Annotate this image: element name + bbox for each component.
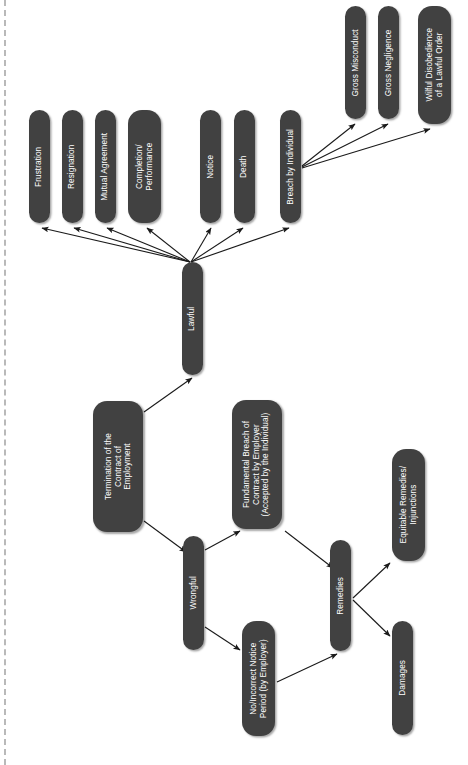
node-label-wilful-disobedience: Wilful Disobedience of a Lawful Order xyxy=(425,28,444,102)
node-label-gross-misconduct: Gross Misconduct xyxy=(351,29,361,96)
edge-lawful-to-death xyxy=(191,228,243,262)
edge-lawful-to-resignation xyxy=(74,228,190,262)
node-label-frustration: Frustration xyxy=(35,146,45,186)
node-label-wrongful: Wrongful xyxy=(189,576,199,609)
edge-breach-to-disobedience xyxy=(302,129,430,168)
edge-remedies-to-damages xyxy=(353,600,390,636)
edge-breach-to-misconduct xyxy=(302,124,355,166)
node-wrongful[interactable]: Wrongful xyxy=(183,536,204,650)
node-completion[interactable]: Completion/ Performance xyxy=(128,110,161,223)
node-label-notice: Notice xyxy=(206,155,216,179)
node-label-equitable: Equitable Remedies/ Injunctions xyxy=(399,466,418,543)
node-equitable[interactable]: Equitable Remedies/ Injunctions xyxy=(392,449,425,561)
node-remedies[interactable]: Remedies xyxy=(330,540,351,651)
edge-termination-to-wrongful xyxy=(144,521,186,552)
node-fundamental-breach[interactable]: Fundamental Breach of Contract by Employ… xyxy=(232,400,282,529)
node-termination[interactable]: Termination of the Contract of Employmen… xyxy=(93,401,143,532)
node-label-resignation: Resignation xyxy=(68,144,78,188)
left-dashed-rule xyxy=(4,0,6,765)
node-gross-misconduct[interactable]: Gross Misconduct xyxy=(345,6,366,119)
node-label-breach: Breach by Individual xyxy=(286,129,296,205)
edge-lawful-to-mutual xyxy=(107,228,190,262)
edge-lawful-to-notice xyxy=(191,228,211,262)
node-no-notice[interactable]: No/Incorrect Notice Period (by Employer) xyxy=(242,621,275,736)
node-label-fundamental-breach: Fundamental Breach of Contract by Employ… xyxy=(242,413,271,517)
node-breach[interactable]: Breach by Individual xyxy=(280,110,301,223)
node-label-lawful: Lawful xyxy=(188,306,198,330)
edge-fundamental-to-remedies xyxy=(285,531,333,568)
node-mutual[interactable]: Mutual Agreement xyxy=(95,110,116,223)
edge-wrongful-to-no-notice xyxy=(205,627,240,650)
node-resignation[interactable]: Resignation xyxy=(62,110,83,223)
node-notice[interactable]: Notice xyxy=(200,110,221,223)
edge-lawful-to-breach xyxy=(191,228,289,262)
edge-breach-to-negligence xyxy=(302,124,388,167)
edge-lawful-to-completion xyxy=(147,228,190,262)
edge-lawful-to-frustration xyxy=(42,228,190,262)
node-death[interactable]: Death xyxy=(234,110,255,223)
node-lawful[interactable]: Lawful xyxy=(182,262,203,375)
node-label-damages: Damages xyxy=(398,660,408,696)
diagram-canvas: FrustrationResignationMutual AgreementCo… xyxy=(0,0,468,765)
edge-remedies-to-equitable xyxy=(353,563,390,598)
node-label-gross-negligence: Gross Negligence xyxy=(384,29,394,96)
edge-no-notice-to-remedies xyxy=(277,654,337,682)
node-label-completion: Completion/ Performance xyxy=(135,143,154,191)
node-label-remedies: Remedies xyxy=(336,577,346,615)
edge-wrongful-to-fundamental xyxy=(205,531,240,550)
node-damages[interactable]: Damages xyxy=(392,621,413,735)
node-wilful-disobedience[interactable]: Wilful Disobedience of a Lawful Order xyxy=(418,6,451,124)
node-frustration[interactable]: Frustration xyxy=(29,110,50,223)
node-label-no-notice: No/Incorrect Notice Period (by Employer) xyxy=(249,639,268,718)
node-label-termination: Termination of the Contract of Employmen… xyxy=(104,433,133,500)
node-gross-negligence[interactable]: Gross Negligence xyxy=(378,6,399,119)
node-label-mutual: Mutual Agreement xyxy=(101,132,111,200)
node-label-death: Death xyxy=(240,155,250,177)
edge-termination-to-lawful xyxy=(144,378,192,412)
